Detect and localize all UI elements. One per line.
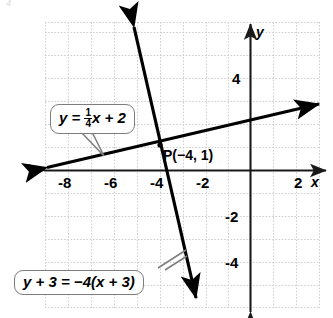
x-tick-label--2: -2: [196, 175, 209, 190]
x-tick-label--4: -4: [150, 175, 163, 190]
coordinate-plane-figure: 4: [0, 0, 333, 318]
fraction-numerator: 1: [84, 108, 92, 118]
callout-leader-steep: [158, 250, 187, 270]
x-tick-label-2: 2: [294, 175, 302, 190]
y-axis-label: y: [256, 24, 264, 40]
y-tick-label-4: 4: [232, 71, 240, 86]
callout-equation-steep: y + 3 = −4(x + 3): [14, 270, 144, 295]
callout-shallow-lhs: y =: [59, 109, 84, 126]
callout-equation-shallow: y = 14x + 2: [50, 104, 135, 134]
point-p-marker: [157, 142, 162, 147]
fraction-one-fourth: 14: [84, 108, 92, 129]
y-tick-label--4: -4: [225, 255, 238, 270]
callout-shallow-rhs: x + 2: [92, 109, 126, 126]
x-tick-label--8: -8: [58, 175, 71, 190]
y-tick-label--2: -2: [225, 209, 238, 224]
grid-lines: [45, 22, 320, 308]
x-tick-label--6: -6: [104, 175, 117, 190]
callout-leader-shallow: [81, 132, 104, 156]
x-axis-label: x: [311, 174, 319, 190]
point-label-p: P(−4, 1): [163, 147, 213, 163]
fraction-denominator: 4: [84, 118, 92, 129]
callout-steep-text: y + 3 = −4(x + 3): [23, 273, 135, 290]
